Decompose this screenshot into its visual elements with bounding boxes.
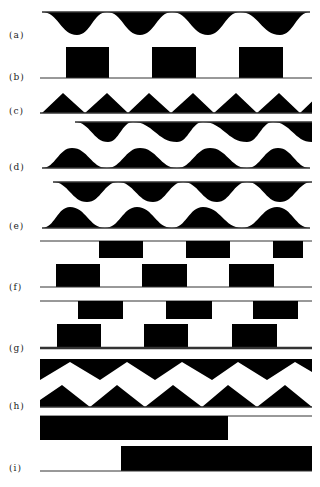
pulse-block bbox=[66, 47, 109, 78]
waveform-e bbox=[42, 182, 312, 228]
pulse-block bbox=[78, 301, 123, 319]
pulse-block bbox=[121, 446, 312, 471]
waveform-g bbox=[40, 301, 312, 348]
panel-label-h: (h) bbox=[9, 401, 25, 411]
waveform-d bbox=[42, 122, 312, 168]
panel-label-g: (g) bbox=[9, 343, 25, 353]
lower-zigzag-shape bbox=[40, 385, 312, 407]
pulse-block bbox=[229, 264, 274, 287]
wave-shape bbox=[42, 93, 312, 113]
waveform-h bbox=[40, 359, 312, 407]
pulse-block bbox=[152, 47, 196, 78]
upper-wave-shape bbox=[75, 122, 312, 142]
panel-label-i: (i) bbox=[9, 463, 22, 473]
upper-wave-shape bbox=[53, 182, 312, 202]
lower-wave-shape bbox=[42, 148, 310, 168]
pulse-block bbox=[166, 301, 212, 319]
panel-label-a: (a) bbox=[9, 30, 24, 40]
panel-label-e: (e) bbox=[9, 221, 24, 231]
wave-shape bbox=[42, 12, 310, 35]
waveform-figure bbox=[0, 0, 320, 487]
waveform-i bbox=[40, 416, 312, 471]
panel-label-c: (c) bbox=[9, 106, 24, 116]
pulse-block bbox=[142, 264, 187, 287]
waveform-c bbox=[40, 93, 312, 113]
panel-label-b: (b) bbox=[9, 72, 25, 82]
pulse-block bbox=[232, 324, 277, 348]
waveform-b bbox=[40, 47, 312, 78]
waveform-a bbox=[42, 12, 310, 35]
panel-label-f: (f) bbox=[9, 282, 22, 292]
pulse-block bbox=[253, 301, 298, 319]
pulse-block bbox=[273, 241, 303, 258]
panel-label-d: (d) bbox=[9, 162, 25, 172]
pulse-block bbox=[239, 47, 283, 78]
pulse-block bbox=[186, 241, 230, 258]
waveform-f bbox=[40, 241, 312, 287]
pulse-block bbox=[144, 324, 188, 348]
pulse-block bbox=[57, 324, 101, 348]
upper-zigzag-shape bbox=[40, 359, 312, 380]
pulse-block bbox=[99, 241, 143, 258]
pulse-block bbox=[40, 416, 228, 440]
lower-wave-shape bbox=[42, 207, 310, 228]
pulse-block bbox=[56, 264, 100, 287]
